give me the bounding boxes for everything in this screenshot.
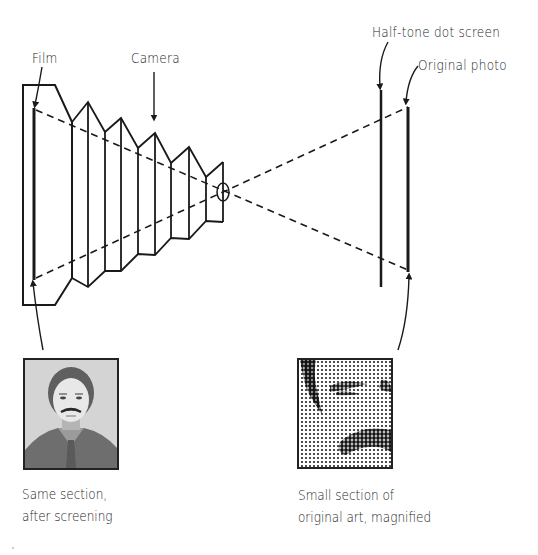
original-photo-arrow xyxy=(406,66,418,102)
light-path-rays xyxy=(36,107,408,278)
original-art-arrow xyxy=(398,276,409,350)
halftone-screen-arrow xyxy=(380,42,388,87)
screened-portrait-photo xyxy=(24,359,118,469)
pointer-arrows xyxy=(33,42,418,350)
halftone-screen-label: Half-tone dot screen xyxy=(372,23,500,42)
left-caption-line1: Same section, xyxy=(22,484,107,504)
right-caption-line2: original art, magnified xyxy=(298,507,431,527)
left-caption-line2: after screening xyxy=(22,506,113,526)
film-label: Film xyxy=(32,49,58,68)
camera-bellows xyxy=(72,102,223,287)
original-photo-label: Original photo xyxy=(418,56,507,75)
magnified-halftone-photo xyxy=(298,359,392,468)
camera-label: Camera xyxy=(131,49,180,68)
halftone-process-diagram xyxy=(0,0,538,555)
right-caption-line1: Small section of xyxy=(298,485,394,505)
